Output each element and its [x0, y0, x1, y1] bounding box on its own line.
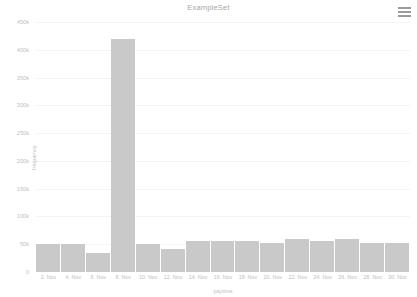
bar[interactable]	[186, 241, 211, 272]
bar[interactable]	[111, 39, 136, 272]
bar[interactable]	[260, 243, 285, 272]
x-axis-tick-label: 20. Nov	[264, 274, 283, 280]
y-axis-tick-label: 450k	[0, 19, 29, 25]
bar[interactable]	[61, 244, 86, 272]
bar[interactable]	[235, 241, 260, 272]
bar[interactable]	[285, 239, 310, 272]
x-axis-tick-label: 14. Nov	[189, 274, 208, 280]
page-title: ExampleSet	[0, 3, 417, 12]
x-axis-tick-label: 16. Nov	[214, 274, 233, 280]
bar[interactable]	[211, 241, 236, 272]
chart-container: ExampleSet 450k400k350k300k250k200k150k1…	[0, 0, 417, 297]
menu-line-2	[398, 11, 411, 13]
bar[interactable]	[86, 253, 111, 272]
bar[interactable]	[335, 239, 360, 272]
y-axis-tick-label: 100k	[0, 213, 29, 219]
x-axis-tick-label: 18. Nov	[239, 274, 258, 280]
x-axis-tick-label: 12. Nov	[164, 274, 183, 280]
x-axis-tick-label: 2. Nov	[41, 274, 57, 280]
bar-series	[36, 22, 410, 272]
x-axis-tick-label: 8. Nov	[115, 274, 131, 280]
x-axis-tick-label: 6. Nov	[91, 274, 107, 280]
x-axis-title: paytime	[36, 288, 410, 294]
x-axis-tick-label: 24. Nov	[313, 274, 332, 280]
menu-line-3	[398, 15, 411, 17]
bar[interactable]	[385, 243, 410, 272]
x-axis-tick-label: 10. Nov	[139, 274, 158, 280]
y-axis-title: frequency	[31, 145, 37, 170]
bar[interactable]	[161, 249, 186, 272]
x-axis-tick-label: 4. Nov	[66, 274, 82, 280]
x-axis-tick-label: 22. Nov	[289, 274, 308, 280]
x-axis-tick-label: 26. Nov	[338, 274, 357, 280]
bar[interactable]	[310, 241, 335, 272]
hamburger-menu-icon[interactable]	[398, 7, 411, 17]
x-axis-tick-label: 28. Nov	[363, 274, 382, 280]
plot-area: 450k400k350k300k250k200k150k100k50k0 2. …	[36, 22, 410, 272]
menu-line-1	[398, 7, 411, 9]
y-axis-tick-label: 250k	[0, 130, 29, 136]
bar[interactable]	[36, 244, 61, 272]
y-axis-tick-label: 300k	[0, 102, 29, 108]
y-axis-tick-label: 350k	[0, 75, 29, 81]
bar[interactable]	[136, 244, 161, 272]
y-axis-tick-label: 150k	[0, 186, 29, 192]
x-axis-tick-label: 30. Nov	[388, 274, 407, 280]
y-axis-tick-label: 400k	[0, 47, 29, 53]
y-axis-tick-label: 200k	[0, 158, 29, 164]
y-axis-tick-label: 50k	[0, 241, 29, 247]
y-axis-tick-label: 0	[0, 269, 29, 275]
bar[interactable]	[360, 243, 385, 272]
